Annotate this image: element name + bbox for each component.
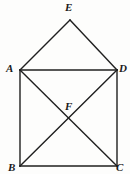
vertex-label-E: E: [65, 2, 72, 13]
vertex-label-F: F: [65, 101, 72, 112]
vertex-label-C: C: [116, 162, 123, 173]
geometry-svg: [0, 0, 130, 174]
vertex-label-D: D: [119, 63, 127, 74]
segment-group: [20, 20, 117, 166]
geometry-figure: A D B C E F: [0, 0, 130, 174]
vertex-label-B: B: [8, 162, 15, 173]
segment-ED: [70, 20, 117, 70]
segment-AE: [20, 20, 70, 70]
vertex-label-A: A: [6, 63, 13, 74]
